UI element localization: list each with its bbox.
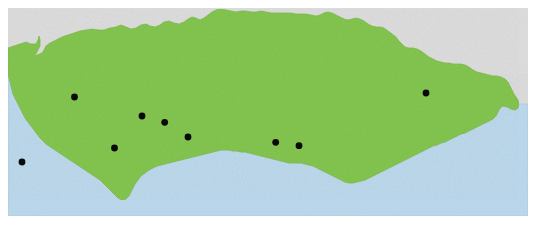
record-point-p7 [272,139,279,146]
record-point-p8 [296,142,303,149]
record-point-p3 [111,145,118,152]
map-figure [0,0,537,230]
record-point-p1 [19,159,26,166]
record-point-p2 [71,94,78,101]
map-canvas [0,0,537,230]
record-point-p4 [139,113,146,120]
record-point-p6 [185,134,192,141]
record-point-p9 [423,90,430,97]
record-point-p5 [161,119,168,126]
